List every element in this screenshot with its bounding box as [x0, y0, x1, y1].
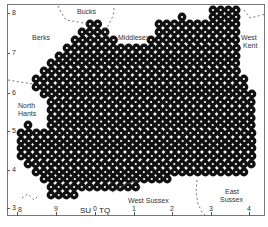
berks-hants-boundary — [8, 80, 34, 84]
y-label-3: 3 — [12, 204, 16, 211]
label-north-hants-2: Hants — [18, 110, 36, 118]
label-west-sussex: West Sussex — [128, 197, 169, 205]
label-west-kent-1: West — [241, 34, 257, 42]
label-north-hants-1: North — [18, 102, 35, 110]
x-tick-1 — [134, 212, 135, 216]
label-east-sussex-2: Sussex — [220, 196, 243, 204]
x-label-2: 2 — [170, 205, 174, 212]
y-tick-5 — [7, 131, 10, 132]
label-west-kent-2: Kent — [243, 42, 257, 50]
y-tick-3 — [7, 208, 10, 209]
y-label-6: 6 — [12, 89, 16, 96]
grid-square-tq: TQ — [99, 206, 110, 215]
label-east-sussex-1: East — [225, 188, 239, 196]
y-label-5: 5 — [12, 127, 16, 134]
y-label-8: 8 — [12, 9, 16, 16]
x-tick-3 — [211, 212, 212, 216]
label-berks: Berks — [32, 34, 50, 42]
x-label-8: 8 — [18, 206, 22, 213]
x-tick-0 — [95, 212, 96, 216]
y-tick-6 — [7, 93, 10, 94]
y-tick-4 — [7, 170, 10, 171]
grid-square-su: SU — [80, 206, 91, 215]
x-tick-4 — [249, 212, 250, 216]
label-bucks: Bucks — [77, 8, 96, 16]
x-tick-2 — [172, 212, 173, 216]
kent-boundary-top — [244, 10, 266, 18]
x-label-4: 4 — [247, 205, 251, 212]
y-label-4: 4 — [12, 166, 16, 173]
x-label-0: 0 — [93, 205, 97, 212]
y-label-7: 7 — [12, 49, 16, 56]
x-label-9: 9 — [54, 205, 58, 212]
label-middlesex: Middlesex — [118, 34, 150, 42]
bucks-boundary-right — [102, 8, 114, 32]
y-tick-7 — [7, 53, 10, 54]
x-label-1: 1 — [132, 205, 136, 212]
y-tick-8 — [7, 13, 10, 14]
coast-line — [112, 180, 140, 192]
sussex-boundary — [196, 180, 206, 216]
hants-sussex-boundary — [22, 194, 38, 200]
x-tick-9 — [56, 212, 57, 216]
x-label-3: 3 — [209, 205, 213, 212]
